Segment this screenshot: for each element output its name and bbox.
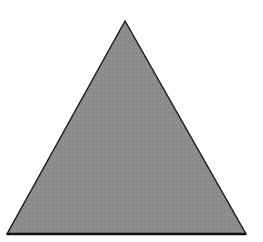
diagram-canvas: [0, 0, 263, 242]
triangle-shape: [7, 21, 246, 234]
triangle-figure: [0, 0, 263, 242]
